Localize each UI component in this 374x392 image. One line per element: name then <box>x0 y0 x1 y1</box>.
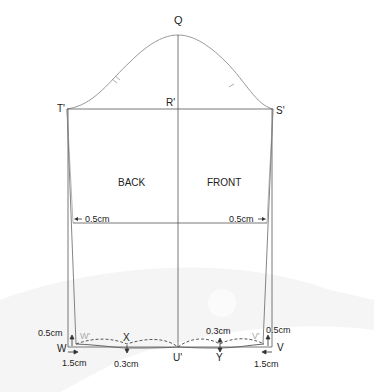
point-q-label: Q <box>174 14 183 26</box>
left-elbow-arrowhead-icon <box>74 217 78 221</box>
point-y-label: Y <box>216 352 223 363</box>
wrist-rise-right-measure: 0.5cm <box>266 325 291 335</box>
front-notch-mark <box>229 84 234 87</box>
point-r-label: R' <box>166 97 175 108</box>
point-w-prime-label: W' <box>80 331 90 341</box>
point-x-label: X <box>123 332 130 343</box>
elbow-left-measure: 0.5cm <box>85 214 110 224</box>
back-label: BACK <box>118 177 146 188</box>
curve-y-measure: 0.3cm <box>206 326 231 336</box>
wrist-in-right-measure: 1.5cm <box>254 359 279 369</box>
point-u-label: U' <box>173 352 182 363</box>
point-v-label: V <box>277 342 284 353</box>
point-v-prime-label: V' <box>252 331 260 341</box>
point-t-label: T' <box>57 103 65 114</box>
point-w-label: W <box>57 343 67 354</box>
sleeve-pattern-diagram: Q R' S' T' BACK FRONT 0.5cm 0.5cm 0.5cm … <box>0 0 374 392</box>
right-elbow-arrowhead-icon <box>262 217 266 221</box>
front-label: FRONT <box>207 177 241 188</box>
curve-x-measure: 0.3cm <box>114 359 139 369</box>
elbow-right-measure: 0.5cm <box>229 214 254 224</box>
wrist-in-left-measure: 1.5cm <box>62 358 87 368</box>
back-notch-marks <box>112 76 120 83</box>
point-s-label: S' <box>276 105 285 116</box>
wrist-rise-left-measure: 0.5cm <box>38 328 63 338</box>
